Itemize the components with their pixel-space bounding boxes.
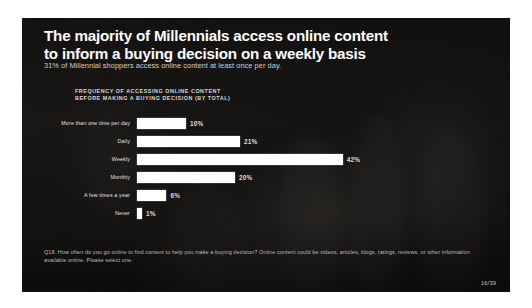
presentation-slide: The majority of Millennials access onlin… (22, 18, 510, 292)
bar-category-label: Daily (44, 138, 137, 144)
bar-category-label: Monthly (44, 174, 137, 180)
bar-value-label: 6% (170, 192, 180, 199)
bar-row: Daily21% (44, 132, 484, 150)
slide-headline: The majority of Millennials access onlin… (44, 27, 464, 62)
headline-line-2: to inform a buying decision on a weekly … (44, 45, 464, 63)
bar-category-label: Never (44, 210, 137, 216)
bar-fill (137, 154, 343, 165)
question-footnote: Q18. How often do you go online to find … (44, 248, 488, 264)
bar-track: 20% (137, 172, 484, 183)
bar-fill (137, 118, 186, 129)
bar-value-label: 42% (347, 156, 360, 163)
chart-title: FREQUENCY OF ACCESSING ONLINE CONTENT BE… (75, 88, 230, 103)
chart-title-line-1: FREQUENCY OF ACCESSING ONLINE CONTENT (75, 88, 230, 95)
bar-row: Monthly20% (44, 168, 484, 186)
bar-fill (137, 190, 166, 201)
slide-subheadline: 31% of Millennial shoppers access online… (44, 61, 484, 71)
bar-track: 1% (137, 208, 484, 219)
bar-track: 42% (137, 154, 484, 165)
bar-row: Weekly42% (44, 150, 484, 168)
bar-fill (137, 208, 142, 219)
bar-row: More than one time per day10% (44, 114, 484, 132)
bar-value-label: 20% (239, 174, 252, 181)
page-number: 16/39 (481, 280, 496, 286)
bar-row: Never1% (44, 204, 484, 222)
bar-category-label: A few times a year (44, 192, 137, 198)
bar-row: A few times a year6% (44, 186, 484, 204)
headline-line-1: The majority of Millennials access onlin… (44, 27, 464, 45)
bar-fill (137, 136, 240, 147)
bar-category-label: More than one time per day (44, 120, 137, 126)
bar-value-label: 21% (244, 138, 257, 145)
bar-track: 21% (137, 136, 484, 147)
bar-value-label: 10% (190, 120, 203, 127)
slide-content: The majority of Millennials access onlin… (22, 18, 510, 292)
bar-category-label: Weekly (44, 156, 137, 162)
bar-fill (137, 172, 235, 183)
bar-track: 10% (137, 118, 484, 129)
chart-title-line-2: BEFORE MAKING A BUYING DECISION (By Tota… (75, 95, 230, 102)
bar-value-label: 1% (146, 210, 156, 217)
bar-track: 6% (137, 190, 484, 201)
bar-chart: More than one time per day10%Daily21%Wee… (44, 114, 484, 230)
